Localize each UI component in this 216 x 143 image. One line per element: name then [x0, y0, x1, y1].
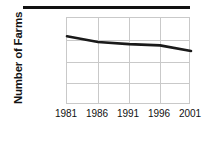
- chart-figure: Number of Farms 050,000100,000150,000200…: [0, 0, 216, 143]
- data-line: [67, 36, 191, 51]
- plot-area: [66, 17, 190, 104]
- series-line-number-of-farms: [67, 18, 191, 105]
- header-rule: [23, 6, 190, 9]
- y-axis-title: Number of Farms: [12, 2, 24, 114]
- x-tick-label: 2001: [170, 108, 210, 119]
